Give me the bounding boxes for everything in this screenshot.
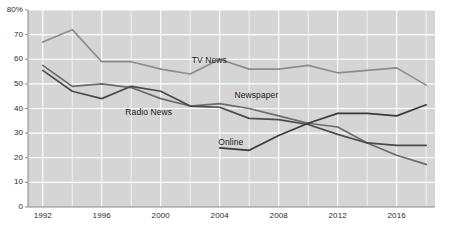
series-label-online: Online	[218, 137, 243, 147]
chart-canvas	[0, 0, 453, 235]
x-axis-tick-label: 2016	[377, 211, 417, 220]
x-axis-tick-label: 2004	[200, 211, 240, 220]
series-label-newspaper: Newspaper	[234, 90, 278, 100]
y-axis-tick-label: 20	[14, 153, 23, 162]
line-chart: 01020304050607080%1992199620002004200820…	[0, 0, 453, 235]
y-axis-tick-label: 50	[14, 79, 23, 88]
y-axis-tick-label: 40	[14, 104, 23, 113]
x-axis-tick-label: 1992	[23, 211, 63, 220]
y-axis-tick-label: 30	[14, 128, 23, 137]
y-axis-tick-label: 70	[14, 30, 23, 39]
y-axis-tick-label: 10	[14, 177, 23, 186]
y-axis-tick-label: 80%	[7, 5, 23, 14]
x-axis-tick-label: 2000	[141, 211, 181, 220]
y-axis-tick-label: 60	[14, 54, 23, 63]
x-axis-tick-label: 1996	[82, 211, 122, 220]
x-axis-tick-label: 2008	[259, 211, 299, 220]
series-label-radio-news: Radio News	[125, 107, 172, 117]
x-axis-tick-label: 2012	[318, 211, 358, 220]
series-label-tv-news: TV News	[192, 55, 227, 65]
y-axis-tick-label: 0	[18, 202, 23, 211]
